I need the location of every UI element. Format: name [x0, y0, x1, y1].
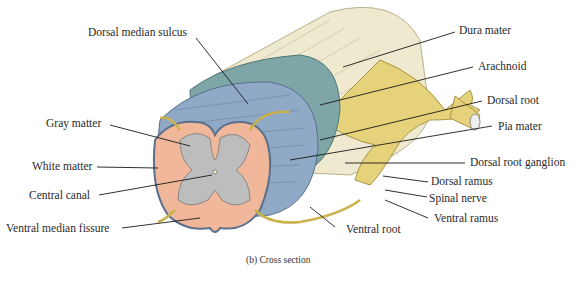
label-dura-mater: Dura mater [459, 25, 511, 37]
label-spinal-nerve: Spinal nerve [429, 193, 487, 205]
label-central-canal: Central canal [29, 190, 90, 202]
label-arachnoid: Arachnoid [478, 61, 527, 73]
label-ventral-ramus: Ventral ramus [434, 213, 498, 225]
label-dorsal-root: Dorsal root [487, 95, 539, 107]
label-white-matter: White matter [32, 161, 92, 173]
label-dorsal-ramus: Dorsal ramus [431, 176, 493, 188]
label-dorsal-root-ganglion: Dorsal root ganglion [470, 157, 565, 169]
spinal-cord-diagram: Dorsal median sulcus Gray matter White m… [0, 0, 587, 283]
label-ventral-median-fissure: Ventral median fissure [6, 223, 109, 235]
label-ventral-root: Ventral root [346, 224, 401, 236]
cross-section-face [154, 122, 270, 232]
label-pia-mater: Pia mater [498, 121, 542, 133]
label-gray-matter: Gray matter [46, 118, 101, 130]
anatomy-illustration [0, 0, 587, 283]
figure-caption: (b) Cross section [246, 255, 310, 265]
label-dorsal-median-sulcus: Dorsal median sulcus [88, 27, 187, 39]
